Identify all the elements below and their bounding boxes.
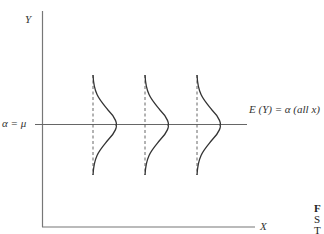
diagram-canvas — [0, 0, 324, 234]
x-axis-label: X — [260, 220, 267, 232]
alpha-mu-label: α = μ — [2, 117, 26, 129]
y-axis-label: Y — [25, 13, 31, 25]
caption-line-3: T — [314, 224, 321, 234]
expectation-label: E (Y) = α (all x) — [249, 103, 320, 115]
